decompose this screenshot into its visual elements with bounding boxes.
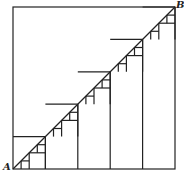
label-a: A [3,161,11,172]
staircase-diagram [0,0,184,175]
label-b: B [176,0,184,10]
